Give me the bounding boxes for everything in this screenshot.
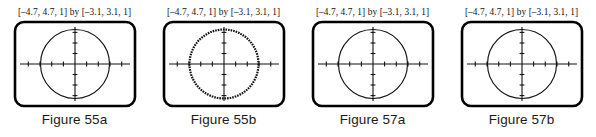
- figure-panel-55b: [–4.7, 4.7, 1] by [–3.1, 3.1, 1]: [149, 0, 298, 137]
- figure-caption-55a: Figure 55a: [42, 112, 108, 127]
- figure-caption-57a: Figure 57a: [340, 112, 406, 127]
- graph-canvas-57b: [460, 20, 584, 108]
- window-range-label: [–4.7, 4.7, 1] by [–3.1, 3.1, 1]: [18, 6, 131, 18]
- figure-panel-57a: [–4.7, 4.7, 1] by [–3.1, 3.1, 1]: [298, 0, 447, 137]
- graph-canvas-55b: [162, 20, 286, 108]
- figure-panel-57b: [–4.7, 4.7, 1] by [–3.1, 3.1, 1]: [447, 0, 596, 137]
- window-range-label: [–4.7, 4.7, 1] by [–3.1, 3.1, 1]: [316, 6, 429, 18]
- window-range-label: [–4.7, 4.7, 1] by [–3.1, 3.1, 1]: [465, 6, 578, 18]
- graph-canvas-55a: [13, 20, 137, 108]
- figure-caption-55b: Figure 55b: [191, 112, 257, 127]
- calculator-screen-55a: [13, 20, 137, 108]
- calculator-screen-57b: [460, 20, 584, 108]
- figure-caption-57b: Figure 57b: [489, 112, 555, 127]
- figure-row: [–4.7, 4.7, 1] by [–3.1, 3.1, 1]: [0, 0, 596, 137]
- calculator-screen-55b: [162, 20, 286, 108]
- graph-canvas-57a: [311, 20, 435, 108]
- figure-panel-55a: [–4.7, 4.7, 1] by [–3.1, 3.1, 1]: [0, 0, 149, 137]
- window-range-label: [–4.7, 4.7, 1] by [–3.1, 3.1, 1]: [167, 6, 280, 18]
- calculator-screen-57a: [311, 20, 435, 108]
